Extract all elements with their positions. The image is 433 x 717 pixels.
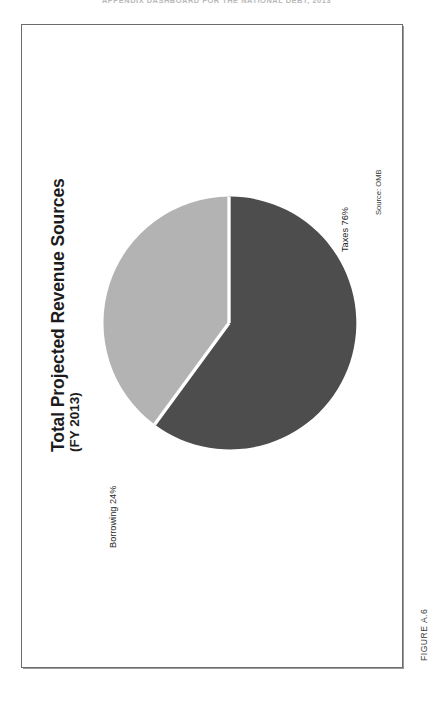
pie-chart [100,194,358,452]
pie-label-taxes: Taxes 76% [340,207,350,252]
pie-chart-svg [100,194,358,452]
chart-title: Total Projected Revenue Sources [48,178,69,452]
figure-content: Total Projected Revenue Sources (FY 2013… [0,0,433,717]
figure-caption: FIGURE A.6 [419,609,429,661]
scanned-page: APPENDIX DASHBOARD FOR THE NATIONAL DEBT… [0,0,433,717]
chart-subtitle: (FY 2013) [67,392,82,452]
pie-label-borrowing: Borrowing 24% [108,486,118,548]
source-note: Source: OMB [374,169,383,215]
